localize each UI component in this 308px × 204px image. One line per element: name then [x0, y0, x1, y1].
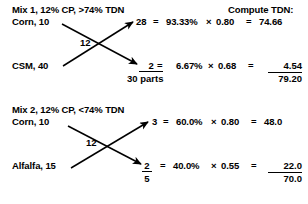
mix2-row-top-eq1: = [163, 116, 168, 127]
mix2-row-bottom-eq1: = [160, 160, 165, 171]
compute-tdn-label: Compute TDN: [228, 4, 293, 15]
mix1-title: Mix 1, 12% CP, >74% TDN [12, 4, 124, 15]
mix2-row-top-eq2: = [251, 116, 256, 127]
mix2-row-bottom-times: × [211, 160, 216, 171]
mix2-row-bottom-parts-denominator: 5 [142, 172, 152, 184]
mix2-total-block: 22.0 70.0 [268, 160, 302, 184]
mix1-line-csm-to-upper [63, 22, 133, 66]
mix2-row-bottom-eq2: = [251, 160, 256, 171]
mix2-row-bottom-parts-numerator: 2 [142, 160, 152, 172]
mix1-row-top-factor: 0.80 [216, 16, 234, 27]
mix2-row-top-product: 48.0 [264, 116, 282, 127]
mix2-row-bottom-percent: 40.0% [173, 160, 199, 171]
mix2-row-top-times: × [211, 116, 216, 127]
mix2-line-alfalfa-to-upper [71, 122, 148, 168]
mix1-row-bottom-eq1: = [157, 60, 162, 71]
mix2-line-corn-to-lower [68, 126, 141, 164]
mix1-row-bottom-product: 4.54 [268, 60, 302, 73]
mix1-row-top-percent: 93.33% [166, 16, 198, 27]
mix1-row-top-product: 74.66 [259, 16, 282, 27]
mix1-row-bottom-eq2: = [248, 60, 253, 71]
mix1-ingredient-top: Corn, 10 [12, 16, 49, 27]
mix1-row-bottom-parts-denominator: 30 parts [127, 72, 163, 84]
mix1-row-top-eq2: = [246, 16, 251, 27]
mix1-total-block: 4.54 79.20 [268, 60, 302, 84]
mix1-line-corn-to-lower [62, 24, 137, 64]
mix1-row-bottom-percent: 6.67% [176, 60, 202, 71]
mix1-center-value: 12 [80, 37, 90, 48]
mix2-center-value: 12 [86, 137, 96, 148]
mix1-row-bottom-times: × [208, 60, 213, 71]
pearson-square-connectors [0, 0, 308, 204]
worksheet-page: Mix 1, 12% CP, >74% TDN Compute TDN: Cor… [0, 0, 308, 204]
mix2-row-top-percent: 60.0% [176, 116, 202, 127]
mix2-row-top-parts: 3 [152, 116, 157, 127]
mix1-row-top-eq1: = [153, 16, 158, 27]
mix2-row-bottom-parts-fraction: 2 5 [142, 160, 152, 184]
mix1-ingredient-bottom: CSM, 40 [12, 60, 48, 71]
mix1-row-top-parts: 28 [136, 16, 146, 27]
mix2-row-top-factor: 0.80 [221, 116, 239, 127]
mix2-row-bottom-product: 22.0 [268, 160, 302, 173]
mix2-title: Mix 2, 12% CP, <74% TDN [12, 104, 124, 115]
mix2-total: 70.0 [268, 173, 302, 185]
mix1-row-bottom-factor: 0.68 [218, 60, 236, 71]
mix1-total: 79.20 [268, 73, 302, 85]
mix2-ingredient-top: Corn, 10 [12, 116, 49, 127]
mix2-row-bottom-factor: 0.55 [221, 160, 239, 171]
mix1-row-top-times: × [206, 16, 211, 27]
mix2-ingredient-bottom: Alfalfa, 15 [12, 160, 56, 171]
